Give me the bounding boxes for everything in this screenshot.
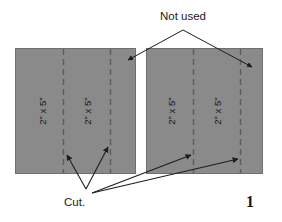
left-board (16, 49, 136, 174)
diagram-canvas: 2" x 5" 2" x 5" 2" x 5" 2" x 5" Not used… (0, 0, 282, 222)
left-board-surface (16, 49, 136, 174)
right-board-surface (147, 49, 263, 174)
woodworking-cut-diagram: 2" x 5" 2" x 5" 2" x 5" 2" x 5" Not used… (0, 0, 282, 222)
not-used-label: Not used (160, 10, 206, 22)
right-board (147, 49, 263, 174)
cut-label: Cut. (64, 196, 85, 208)
right-board-piece-label-2: 2" x 5" (212, 97, 223, 124)
left-board-piece-label-1: 2" x 5" (37, 97, 48, 124)
page-number: 1 (246, 193, 254, 210)
left-board-piece-label-2: 2" x 5" (82, 97, 93, 124)
right-board-piece-label-1: 2" x 5" (166, 97, 177, 124)
